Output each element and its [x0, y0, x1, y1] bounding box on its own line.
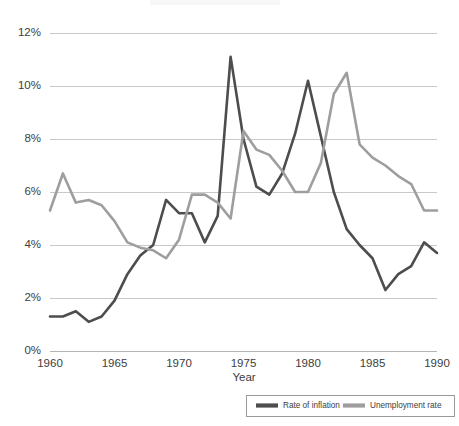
x-axis-tick-label: 1960 [37, 357, 63, 369]
x-axis-tick-label: 1980 [295, 357, 321, 369]
chart-legend: Rate of inflationUnemployment rate [246, 395, 454, 416]
x-axis-title: Year [232, 371, 255, 383]
legend-label-1: Rate of inflation [283, 401, 340, 410]
y-axis-tick-label: 6% [24, 185, 41, 197]
y-axis-tick-label: 12% [18, 26, 41, 38]
y-axis-tick-label: 10% [18, 79, 41, 91]
x-axis-tick-label: 1965 [102, 357, 128, 369]
x-axis-tick-label: 1975 [231, 357, 257, 369]
legend-label-2: Unemployment rate [370, 401, 442, 410]
y-axis-tick-label: 8% [24, 132, 41, 144]
y-axis-tick-label: 4% [24, 238, 41, 250]
x-axis-tick-label: 1985 [360, 357, 386, 369]
chart-container: 0%2%4%6%8%10%12% 19601965197019751980198… [0, 0, 459, 426]
x-axis-tick-label: 1990 [424, 357, 450, 369]
y-axis-tick-label: 0% [24, 344, 41, 356]
y-axis-tick-label: 2% [24, 291, 41, 303]
line-chart: 0%2%4%6%8%10%12% 19601965197019751980198… [0, 0, 459, 426]
x-axis-tick-label: 1970 [166, 357, 192, 369]
